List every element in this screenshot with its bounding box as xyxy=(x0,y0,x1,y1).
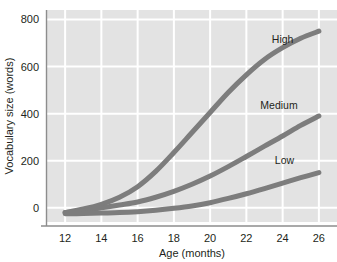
y-axis-tick-label: 800 xyxy=(21,13,39,25)
x-axis-tick-label: 26 xyxy=(313,232,325,244)
x-axis-tick-label: 24 xyxy=(277,232,289,244)
x-axis-tick-label: 18 xyxy=(168,232,180,244)
x-axis-tick-label: 14 xyxy=(95,232,107,244)
x-axis-title: Age (months) xyxy=(159,247,225,259)
x-axis-tick-labels: 1214161820222426 xyxy=(59,232,325,244)
x-axis-tick-label: 20 xyxy=(204,232,216,244)
x-axis-tick-label: 16 xyxy=(132,232,144,244)
x-axis-tick-label: 12 xyxy=(59,232,71,244)
series-label-high: High xyxy=(272,33,294,45)
y-axis-tick-label: 600 xyxy=(21,61,39,73)
y-axis-title: Vocabulary size (words) xyxy=(3,58,15,175)
y-axis-tick-label: 0 xyxy=(33,202,39,214)
vocabulary-growth-chart: 0200400600800 1214161820222426 HighMediu… xyxy=(0,0,337,262)
series-label-low: Low xyxy=(275,154,295,166)
x-axis-tick-label: 22 xyxy=(240,232,252,244)
y-axis-tick-label: 400 xyxy=(21,108,39,120)
y-axis-tick-label: 200 xyxy=(21,155,39,167)
series-label-medium: Medium xyxy=(260,99,298,111)
y-axis-tick-labels: 0200400600800 xyxy=(21,13,39,213)
chart-canvas: 0200400600800 1214161820222426 HighMediu… xyxy=(0,0,337,262)
